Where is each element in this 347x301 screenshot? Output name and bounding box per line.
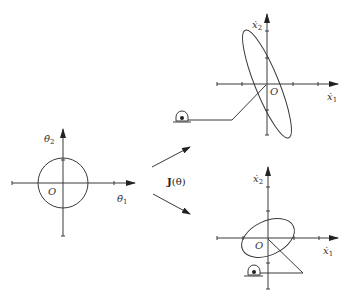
arm-links-top — [187, 85, 266, 120]
base-pivot-top — [173, 111, 191, 122]
arm-links-bottom — [258, 239, 303, 273]
arrow-up-right — [152, 147, 190, 167]
origin-label: O — [48, 186, 56, 197]
base-pivot-bottom — [244, 265, 263, 276]
x1-label: ẋ1 — [327, 91, 337, 104]
task-space-top-plot: O ẋ1 ẋ2 — [173, 14, 338, 142]
jacobian-label: J(θ) — [166, 176, 186, 187]
x2-label: ẋ2 — [253, 173, 263, 186]
origin-label: O — [255, 240, 263, 251]
task-space-bottom-plot: O ẋ1 ẋ2 — [217, 167, 338, 289]
theta1-label: θ̇1 — [117, 193, 128, 206]
arrow-down-right — [153, 194, 190, 214]
origin-label: O — [270, 86, 278, 97]
x1-label: ẋ1 — [323, 245, 333, 258]
theta2-label: θ̇2 — [44, 133, 55, 146]
jacobian-mapping: J(θ) — [152, 147, 190, 214]
x2-label: ẋ2 — [252, 19, 262, 32]
diagram-canvas: O θ̇1 θ̇2 J(θ) O ẋ1 ẋ2 — [0, 0, 347, 301]
joint-space-plot: O θ̇1 θ̇2 — [12, 129, 135, 236]
